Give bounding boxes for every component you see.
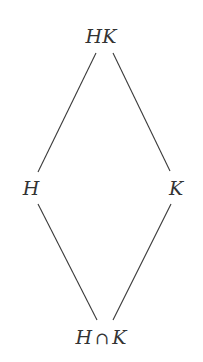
node-k: K (169, 179, 183, 198)
node-h-intersect-k-left: H (75, 326, 92, 348)
node-hk: HK (86, 27, 117, 46)
node-h: H (23, 179, 40, 198)
edge-h-hcapk (38, 204, 97, 320)
edge-hk-k (113, 53, 170, 171)
edge-k-hcapk (113, 204, 171, 320)
node-h-intersect-k-right: K (112, 326, 126, 348)
edge-hk-h (38, 53, 96, 172)
intersection-symbol: ∩ (95, 328, 109, 348)
node-h-intersect-k: H∩K (75, 328, 126, 347)
